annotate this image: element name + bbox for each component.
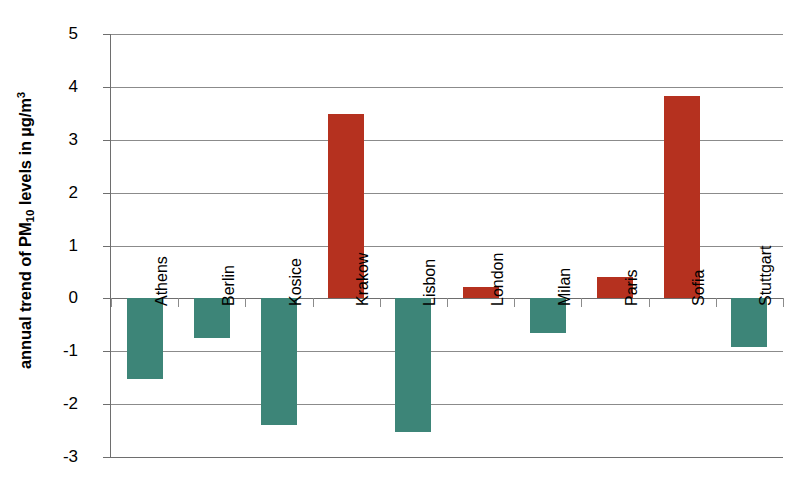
- y-axis-tick: [103, 298, 111, 299]
- gridline-4: [111, 87, 783, 88]
- x-axis-tick: [245, 298, 246, 307]
- x-axis-category-label-milan: Milan: [556, 268, 574, 306]
- y-axis-title-prefix: annual trend of PM: [17, 222, 35, 369]
- y-axis-label: 2: [34, 183, 78, 203]
- x-axis-tick: [447, 298, 448, 307]
- x-axis-tick: [649, 298, 650, 307]
- x-axis-category-label-lisbon: Lisbon: [421, 259, 439, 306]
- x-axis-tick: [380, 298, 381, 307]
- y-axis-label: 3: [34, 130, 78, 150]
- y-axis-tick: [103, 34, 111, 35]
- y-axis-label: -1: [34, 341, 78, 361]
- y-axis-label: 5: [34, 24, 78, 44]
- x-axis-category-label-berlin: Berlin: [220, 265, 238, 306]
- plot-frame-bottom: [110, 457, 782, 458]
- x-axis-category-label-sofia: Sofia: [690, 270, 708, 306]
- bar-chart: annual trend of PM10 levels in µg/m3 543…: [0, 0, 802, 488]
- x-axis-category-label-krakow: Krakow: [354, 253, 372, 306]
- y-axis-title-superscript: 3: [16, 91, 28, 97]
- x-axis-tick: [514, 298, 515, 307]
- x-axis-category-label-london: London: [489, 253, 507, 306]
- bar-athens: [127, 298, 163, 379]
- y-axis-title: annual trend of PM10 levels in µg/m3: [6, 0, 46, 460]
- y-axis-tick: [103, 351, 111, 352]
- y-axis-tick: [103, 87, 111, 88]
- y-axis-title-subscript: 10: [25, 209, 37, 222]
- x-axis-category-label-stuttgart: Stuttgart: [757, 246, 775, 306]
- gridline-neg2: [111, 404, 783, 405]
- x-axis-category-label-athens: Athens: [153, 257, 171, 307]
- x-axis-tick: [716, 298, 717, 307]
- y-axis-label: 1: [34, 236, 78, 256]
- y-axis-tick: [103, 404, 111, 405]
- y-axis-label: -2: [34, 394, 78, 414]
- gridline-neg1: [111, 351, 783, 352]
- bar-lisbon: [395, 298, 431, 432]
- x-axis-category-label-paris: Paris: [623, 270, 641, 306]
- y-axis-title-middle: levels in µg/m: [17, 98, 35, 210]
- y-axis-title-text: annual trend of PM10 levels in µg/m3: [17, 91, 36, 368]
- y-axis-tick: [103, 193, 111, 194]
- x-axis-tick: [313, 298, 314, 307]
- x-axis-tick: [783, 298, 784, 307]
- y-axis-tick: [103, 246, 111, 247]
- x-axis-tick: [178, 298, 179, 307]
- x-axis-tick: [111, 298, 112, 307]
- y-axis-label: 0: [34, 288, 78, 308]
- bar-sofia: [664, 96, 700, 299]
- y-axis-tick: [103, 140, 111, 141]
- x-axis-tick: [581, 298, 582, 307]
- gridline-5: [111, 34, 783, 35]
- y-axis-label: 4: [34, 77, 78, 97]
- plot-area: 543210-1-2-3AthensBerlinKosiceKrakowLisb…: [110, 34, 782, 457]
- x-axis-category-label-kosice: Kosice: [287, 258, 305, 306]
- y-axis-label: -3: [34, 447, 78, 467]
- bar-kosice: [261, 298, 297, 425]
